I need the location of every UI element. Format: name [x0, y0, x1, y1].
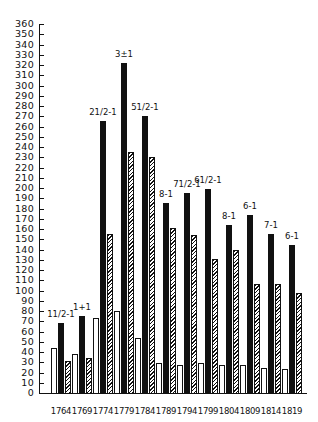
y-tick	[40, 116, 44, 117]
bar-black-1814	[268, 234, 274, 393]
y-tick	[40, 250, 44, 251]
bar-annotation: 61/2-1	[188, 175, 228, 185]
y-tick	[40, 332, 44, 333]
y-tick	[40, 209, 44, 210]
y-tick-label: 350	[4, 29, 34, 39]
bar-annotation: 8-1	[209, 211, 249, 221]
bar-white-1804	[219, 365, 225, 393]
x-tick-label: 1799	[197, 406, 219, 416]
y-tick	[40, 229, 44, 230]
y-tick	[40, 280, 44, 281]
bar-hatch-1779	[128, 152, 134, 393]
bar-white-1794	[177, 365, 183, 393]
y-tick	[40, 239, 44, 240]
y-tick-label: 280	[4, 101, 34, 111]
y-tick-label: 210	[4, 173, 34, 183]
bar-white-1799	[198, 363, 204, 393]
bar-white-1814	[261, 368, 267, 393]
y-tick	[40, 65, 44, 66]
x-axis-line	[39, 393, 307, 394]
bar-annotation: 7-1	[251, 220, 291, 230]
x-tick-label: 1814	[260, 406, 282, 416]
y-tick-label: 50	[4, 337, 34, 347]
y-tick	[40, 86, 44, 87]
y-tick	[40, 75, 44, 76]
bar-black-1804	[226, 225, 232, 393]
y-tick-label: 0	[4, 388, 34, 398]
bar-annotation: 51/2-1	[125, 102, 165, 112]
bar-hatch-1814	[275, 284, 281, 393]
y-tick-label: 230	[4, 152, 34, 162]
y-tick	[40, 383, 44, 384]
y-tick-label: 40	[4, 347, 34, 357]
y-tick-label: 80	[4, 306, 34, 316]
bar-annotation: 6-1	[272, 231, 312, 241]
bar-annotation: 6-1	[230, 201, 270, 211]
bar-white-1819	[282, 369, 288, 393]
y-tick	[40, 168, 44, 169]
bar-hatch-1769	[86, 358, 92, 393]
y-tick	[40, 373, 44, 374]
x-tick-label: 1809	[239, 406, 261, 416]
x-tick-label: 1789	[155, 406, 177, 416]
bar-black-1764	[58, 323, 64, 393]
bar-white-1774	[93, 318, 99, 393]
x-tick-label: 1784	[134, 406, 156, 416]
y-tick	[40, 106, 44, 107]
x-tick-label: 1774	[92, 406, 114, 416]
y-tick-label: 160	[4, 224, 34, 234]
y-tick-label: 300	[4, 81, 34, 91]
y-tick	[40, 55, 44, 56]
y-tick-label: 10	[4, 378, 34, 388]
y-tick-label: 70	[4, 316, 34, 326]
bar-black-1819	[289, 245, 295, 393]
bar-black-1809	[247, 215, 253, 393]
y-tick-label: 150	[4, 234, 34, 244]
y-tick	[40, 45, 44, 46]
y-tick-label: 340	[4, 40, 34, 50]
y-tick	[40, 188, 44, 189]
bar-black-1769	[79, 316, 85, 393]
y-tick-label: 360	[4, 19, 34, 29]
y-tick-label: 60	[4, 327, 34, 337]
y-tick	[40, 147, 44, 148]
y-tick	[40, 96, 44, 97]
bar-white-1769	[72, 354, 78, 393]
bar-chart: 0102030405060708090100110120130140150160…	[0, 0, 318, 422]
bar-annotation: 21/2-1	[83, 107, 123, 117]
y-tick-label: 90	[4, 296, 34, 306]
x-tick-label: 1819	[281, 406, 303, 416]
bar-black-1779	[121, 63, 127, 393]
y-tick-label: 270	[4, 111, 34, 121]
y-tick	[40, 178, 44, 179]
x-tick-label: 1794	[176, 406, 198, 416]
bar-black-1789	[163, 203, 169, 393]
y-tick-label: 190	[4, 193, 34, 203]
y-tick	[40, 24, 44, 25]
y-tick-label: 110	[4, 275, 34, 285]
y-tick-label: 140	[4, 245, 34, 255]
y-tick-label: 180	[4, 204, 34, 214]
y-tick-label: 30	[4, 357, 34, 367]
bar-hatch-1804	[233, 250, 239, 394]
y-tick	[40, 137, 44, 138]
y-tick-label: 260	[4, 122, 34, 132]
bar-white-1784	[135, 338, 141, 393]
y-tick	[40, 127, 44, 128]
y-tick-label: 240	[4, 142, 34, 152]
y-tick	[40, 362, 44, 363]
bar-hatch-1789	[170, 228, 176, 393]
y-tick	[40, 291, 44, 292]
y-tick	[40, 321, 44, 322]
y-tick	[40, 260, 44, 261]
bar-white-1789	[156, 363, 162, 393]
bar-annotation: 8-1	[146, 189, 186, 199]
y-tick	[40, 270, 44, 271]
y-tick-label: 100	[4, 286, 34, 296]
bar-black-1794	[184, 193, 190, 393]
y-tick	[40, 219, 44, 220]
y-tick-label: 130	[4, 255, 34, 265]
y-tick-label: 320	[4, 60, 34, 70]
y-tick-label: 170	[4, 214, 34, 224]
bar-hatch-1799	[212, 259, 218, 393]
